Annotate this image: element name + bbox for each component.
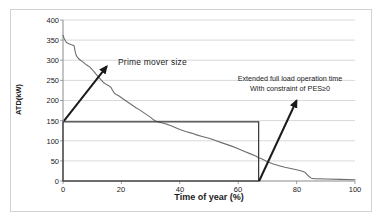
y-tick-label: 250 [33, 76, 59, 85]
extended-full-load-annotation: Extended full load operation time With c… [215, 74, 365, 94]
y-tick-label: 400 [33, 16, 59, 25]
x-axis-title: Time of year (%) [63, 192, 355, 202]
y-tick-label: 350 [33, 36, 59, 45]
y-tick-label: 100 [33, 137, 59, 146]
extended-full-load-line-2: With constraint of PES≥0 [215, 84, 365, 94]
y-tick-label: 300 [33, 56, 59, 65]
y-tick-label: 50 [33, 157, 59, 166]
y-axis-title: ATD(kW) [14, 70, 23, 130]
y-tick-label: 200 [33, 96, 59, 105]
extended-full-load-line-1: Extended full load operation time [215, 74, 365, 84]
chart-figure: 400 350 300 250 200 150 100 50 0 0 20 40… [0, 0, 382, 224]
prime-mover-size-annotation: Prime mover size [118, 57, 187, 67]
y-tick-label: 150 [33, 117, 59, 126]
